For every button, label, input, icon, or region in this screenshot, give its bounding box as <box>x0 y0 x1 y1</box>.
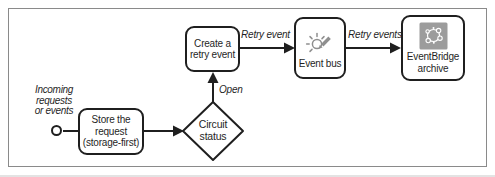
node-label-line: (storage-first) <box>83 137 139 149</box>
node-label-line: request <box>95 126 127 138</box>
node-label: Event bus <box>299 58 342 70</box>
edge-store-to-circuit <box>143 126 184 137</box>
start-label-line: Incoming <box>28 85 80 96</box>
node-event-bus: Event bus <box>294 17 346 79</box>
node-eventbridge-archive: EventBridge archive <box>401 15 465 81</box>
node-label-line: EventBridge <box>407 51 459 63</box>
edge-label-open: Open <box>219 84 243 95</box>
node-network-icon <box>419 22 448 50</box>
edge-create-to-bus <box>240 43 295 54</box>
diagram-canvas: Incoming requests or events Store the re… <box>0 0 495 177</box>
node-label-line: Circuit <box>183 119 243 131</box>
edge-bus-to-archive <box>346 43 401 54</box>
node-label-line: Store the <box>92 114 131 126</box>
start-event-circle <box>51 125 62 136</box>
node-label-line: status <box>183 131 243 143</box>
node-label-line: Create a <box>194 38 231 50</box>
node-circuit-status: Circuit status <box>183 119 243 142</box>
arrowhead-right-icon <box>390 43 401 54</box>
edge-circuit-to-create <box>208 72 219 103</box>
start-label: Incoming requests or events <box>28 85 80 117</box>
edge-label-retry-events: Retry events <box>348 29 394 40</box>
node-create-retry-event: Create a retry event <box>185 26 240 72</box>
node-label-line: retry event <box>190 49 235 61</box>
edge-label-retry-event: Retry event <box>241 29 287 40</box>
node-label-line: archive <box>418 63 449 75</box>
arrowhead-up-icon <box>208 72 219 83</box>
node-store-request: Store the request (storage-first) <box>78 108 144 155</box>
start-label-line: or events <box>28 106 80 117</box>
page-edge-artifact <box>0 175 495 177</box>
pencil-spark-icon <box>305 28 335 57</box>
